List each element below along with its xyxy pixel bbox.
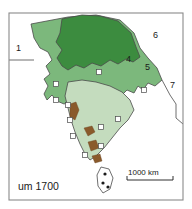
settlement-marker (54, 82, 59, 87)
region-label-6: 6 (153, 30, 158, 40)
settlement-marker (68, 118, 73, 123)
settlement-marker (97, 70, 102, 75)
settlement-marker (142, 88, 147, 93)
region-label-5: 5 (145, 62, 150, 72)
island-dot (106, 185, 109, 188)
settlement-marker (99, 144, 104, 149)
historical-map-figure: 1 4 5 6 7 1000 km um 1700 (0, 0, 192, 209)
region-label-1: 1 (16, 43, 21, 53)
scale-bar-label: 1000 km (128, 168, 159, 177)
island-dot (103, 172, 106, 175)
caption-date: um 1700 (18, 180, 59, 192)
settlement-marker (66, 103, 71, 108)
settlement-marker (54, 98, 59, 103)
region-label-7: 7 (170, 80, 175, 90)
settlement-marker (99, 125, 104, 130)
region-label-4: 4 (126, 54, 131, 64)
settlement-marker (116, 117, 121, 122)
map-canvas: 1 4 5 6 7 1000 km um 1700 (0, 0, 192, 209)
settlement-marker (83, 153, 88, 158)
settlement-marker (71, 134, 76, 139)
island-dot (101, 181, 104, 184)
